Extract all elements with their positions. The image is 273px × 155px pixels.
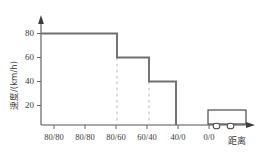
- y-axis-title: 速度/(km/h): [10, 61, 19, 110]
- x-axis-arrow-icon: [246, 122, 255, 128]
- step-chart-figure: 20 40 60 80 80/80 80/80 80/60 60/40 40/0…: [0, 0, 273, 155]
- x-axis-ticks: [54, 125, 209, 129]
- y-tick-label-80: 80: [14, 29, 34, 38]
- y-axis-arrow-icon: [38, 15, 44, 24]
- truck-wheel-rear: [227, 123, 234, 129]
- x-axis-title: 距离: [228, 137, 246, 146]
- y-axis-ticks: [37, 34, 41, 106]
- truck-wheel-front: [213, 123, 220, 129]
- truck-icon: [208, 110, 246, 129]
- dashed-droplines: [117, 58, 149, 126]
- step-line-series: [41, 34, 176, 126]
- truck-body: [208, 110, 246, 124]
- x-tick-label-5: 0/0: [189, 133, 229, 142]
